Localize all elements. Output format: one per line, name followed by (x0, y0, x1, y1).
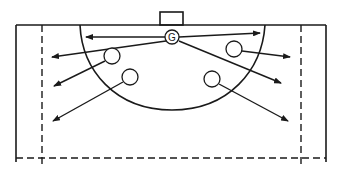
player-circle (104, 48, 120, 64)
pass-arrow (219, 84, 288, 121)
goalkeeper-label: G (168, 32, 176, 43)
pass-arrow (53, 82, 123, 121)
player-circle (122, 69, 138, 85)
goal (160, 12, 183, 25)
pass-arrow (242, 51, 290, 57)
player-circle (226, 41, 242, 57)
pass-arrows (52, 33, 290, 121)
court-diagram: G (0, 0, 339, 173)
dashed-lines (16, 25, 326, 168)
players (104, 41, 242, 87)
court-boundary (16, 25, 326, 162)
pass-arrow (179, 33, 260, 37)
pass-arrow (54, 61, 105, 86)
player-circle (204, 71, 220, 87)
